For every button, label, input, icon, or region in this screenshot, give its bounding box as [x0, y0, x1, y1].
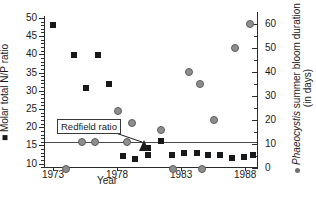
- y-left-tick: [41, 113, 45, 114]
- y-left-tick: [41, 105, 45, 106]
- y-left-tick: [41, 138, 45, 139]
- x-axis-line: [44, 167, 258, 168]
- y-left-tick: [39, 127, 45, 128]
- bloom-duration-point: [91, 138, 99, 146]
- y-left-tick: [41, 135, 45, 136]
- y-left-tick: [41, 116, 45, 117]
- y-left-tick-label: 40: [26, 49, 37, 59]
- y-right-tick: [252, 144, 258, 145]
- y-left-tick-label: 15: [26, 140, 37, 150]
- y-left-tick: [41, 32, 45, 33]
- bloom-duration-point: [246, 20, 254, 28]
- bloom-duration-point: [128, 119, 136, 127]
- y-right-tick-label: 50: [265, 43, 276, 53]
- y-left-tick-label: 25: [26, 104, 37, 114]
- y-right-tick: [252, 120, 258, 121]
- bloom-duration-point: [114, 107, 122, 115]
- figure-root: 101520253035404550 0102030405060 1973197…: [0, 0, 316, 216]
- square-marker-icon: [2, 135, 7, 140]
- y-left-tick-label: 30: [26, 86, 37, 96]
- bloom-duration-point: [198, 165, 206, 173]
- y-left-tick: [39, 109, 45, 110]
- y-right-tick: [254, 60, 258, 61]
- y-left-tick: [39, 54, 45, 55]
- y-left-tick: [41, 87, 45, 88]
- y-axis-left-title-text: Molar total N/P ratio: [0, 44, 10, 132]
- y-left-tick: [39, 18, 45, 19]
- np-ratio-point: [145, 152, 151, 158]
- y-right-tick: [252, 48, 258, 49]
- y-left-tick: [41, 43, 45, 44]
- y-left-tick: [41, 156, 45, 157]
- bloom-duration-point: [231, 44, 239, 52]
- y-left-tick: [41, 40, 45, 41]
- y-right-tick: [252, 72, 258, 73]
- np-ratio-point: [120, 153, 126, 159]
- y-left-tick: [41, 80, 45, 81]
- plot-area: 101520253035404550 0102030405060 1973197…: [44, 16, 258, 168]
- np-ratio-point: [250, 152, 256, 158]
- y-left-tick: [39, 73, 45, 74]
- y-axis-left-title: Molar total N/P ratio: [0, 44, 10, 140]
- np-ratio-point: [229, 155, 235, 161]
- bloom-duration-point: [185, 68, 193, 76]
- y-left-tick: [41, 22, 45, 23]
- y-left-tick: [41, 160, 45, 161]
- y-right-tick: [254, 132, 258, 133]
- y-axis-right-title-text: summer bloom duration: [291, 3, 302, 111]
- np-ratio-point: [95, 52, 101, 58]
- y-left-tick: [41, 124, 45, 125]
- np-ratio-point: [83, 85, 89, 91]
- annotation-arrow-icon: [139, 140, 149, 151]
- circle-marker-icon: [295, 168, 300, 173]
- bloom-duration-point: [78, 138, 86, 146]
- redfield-reference-line: [44, 142, 258, 143]
- y-left-tick: [41, 83, 45, 84]
- x-tick-label: 1988: [234, 170, 256, 180]
- y-left-tick-label: 10: [26, 159, 37, 169]
- bloom-duration-point: [62, 165, 70, 173]
- bloom-duration-point: [210, 116, 218, 124]
- y-left-tick-label: 35: [26, 68, 37, 78]
- x-axis-title: Year: [97, 175, 117, 186]
- y-left-tick: [41, 94, 45, 95]
- np-ratio-point: [205, 152, 211, 158]
- y-left-tick: [41, 29, 45, 30]
- np-ratio-point: [71, 52, 77, 58]
- bloom-duration-point: [196, 80, 204, 88]
- y-right-tick-label: 0: [265, 163, 271, 173]
- y-left-tick-label: 50: [26, 13, 37, 23]
- y-left-tick: [39, 164, 45, 165]
- y-left-tick: [39, 91, 45, 92]
- y-right-tick-label: 40: [265, 67, 276, 77]
- y-left-tick: [39, 145, 45, 146]
- y-right-tick: [254, 108, 258, 109]
- redfield-ratio-label: Redfield ratio: [61, 121, 117, 132]
- y-right-tick-label: 20: [265, 115, 276, 125]
- y-left-tick: [41, 65, 45, 66]
- np-ratio-point: [132, 156, 138, 162]
- np-ratio-point: [158, 138, 164, 144]
- y-left-tick: [41, 153, 45, 154]
- y-right-tick: [254, 84, 258, 85]
- y-left-tick-label: 45: [26, 31, 37, 41]
- y-left-tick: [41, 120, 45, 121]
- y-left-tick: [41, 142, 45, 143]
- y-left-tick: [39, 36, 45, 37]
- y-left-tick: [41, 47, 45, 48]
- np-ratio-point: [194, 150, 200, 156]
- np-ratio-point: [169, 152, 175, 158]
- y-left-tick: [41, 51, 45, 52]
- y-axis-right-title-units: (in days): [302, 69, 313, 107]
- x-tick-label: 1973: [42, 170, 64, 180]
- y-axis-right-title: Phaeocystis summer bloom duration (in da…: [291, 3, 313, 173]
- np-ratio-point: [50, 22, 56, 28]
- y-right-tick-label: 10: [265, 139, 276, 149]
- np-ratio-point: [181, 150, 187, 156]
- y-left-tick: [41, 102, 45, 103]
- bloom-duration-point: [169, 165, 177, 173]
- y-left-tick-label: 20: [26, 122, 37, 132]
- y-left-tick: [41, 62, 45, 63]
- y-axis-right-title-genus: Phaeocystis: [291, 111, 302, 165]
- np-ratio-point: [241, 154, 247, 160]
